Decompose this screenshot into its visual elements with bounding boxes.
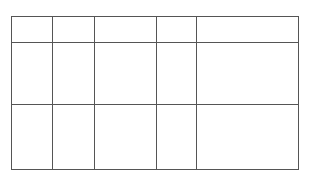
table-cell bbox=[157, 43, 197, 105]
table-row bbox=[12, 17, 299, 43]
table-row bbox=[12, 105, 299, 170]
table-cell bbox=[53, 43, 95, 105]
table-cell bbox=[53, 17, 95, 43]
table-cell bbox=[12, 17, 53, 43]
document-page bbox=[0, 0, 311, 183]
table-cell bbox=[157, 17, 197, 43]
empty-table bbox=[11, 16, 299, 170]
table-row bbox=[12, 43, 299, 105]
table-cell bbox=[12, 105, 53, 170]
table-cell bbox=[12, 43, 53, 105]
table-cell bbox=[197, 105, 299, 170]
table-cell bbox=[95, 43, 157, 105]
table-cell bbox=[95, 17, 157, 43]
table-cell bbox=[157, 105, 197, 170]
table-cell bbox=[197, 43, 299, 105]
table-cell bbox=[95, 105, 157, 170]
table-cell bbox=[53, 105, 95, 170]
table-cell bbox=[197, 17, 299, 43]
